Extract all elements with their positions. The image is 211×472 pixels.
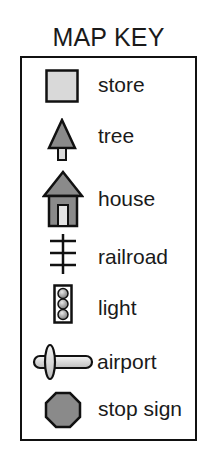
legend-label: store	[98, 73, 145, 97]
legend-label: house	[98, 187, 155, 211]
railroad-icon	[48, 233, 78, 275]
store-icon	[45, 69, 79, 103]
tree-icon	[46, 118, 78, 162]
map-key-title: MAP KEY	[0, 24, 211, 50]
airport-icon	[32, 342, 94, 382]
map-key-box: store tree house railroad	[20, 56, 197, 441]
house-icon	[42, 170, 84, 228]
legend-label: airport	[97, 350, 157, 374]
legend-label: stop sign	[98, 397, 182, 421]
stop-sign-icon	[44, 391, 82, 429]
legend-label: light	[98, 296, 137, 320]
light-icon	[53, 284, 73, 324]
legend-label: tree	[98, 124, 134, 148]
legend-label: railroad	[98, 245, 168, 269]
